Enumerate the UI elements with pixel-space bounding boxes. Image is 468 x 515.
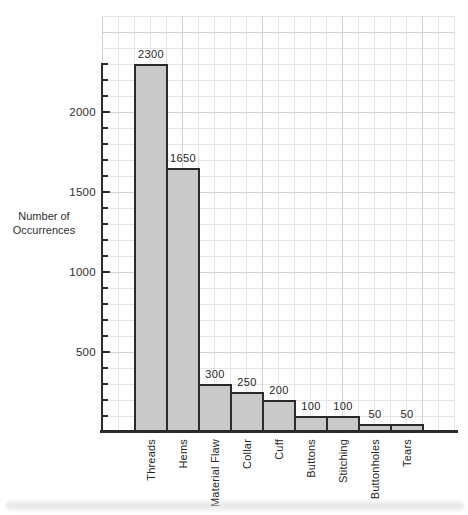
x-tick-label-tears: Tears xyxy=(401,439,414,467)
bar-hems xyxy=(166,168,200,432)
bar-buttonholes xyxy=(358,424,392,432)
bar-value-hems: 1650 xyxy=(153,151,213,165)
x-tick-label-cuff: Cuff xyxy=(273,439,286,460)
y-minor-tick-800 xyxy=(103,303,108,305)
y-major-tick-1500 xyxy=(103,191,110,193)
y-tick-label-500: 500 xyxy=(54,345,96,359)
y-axis-title: Number ofOccurrences xyxy=(4,209,84,237)
x-tick-label-buttonholes: Buttonholes xyxy=(369,439,382,499)
bar-collar xyxy=(230,392,264,432)
x-tick-label-hems: Hems xyxy=(177,439,190,469)
bar-value-threads: 2300 xyxy=(121,47,181,61)
x-tick-label-threads: Threads xyxy=(145,439,158,481)
y-minor-tick-2200 xyxy=(103,79,108,81)
scan-shadow xyxy=(6,499,464,512)
y-minor-tick-2100 xyxy=(103,95,108,97)
x-tick-label-buttons: Buttons xyxy=(305,439,318,478)
y-minor-tick-1100 xyxy=(103,255,108,257)
y-minor-tick-300 xyxy=(103,383,108,385)
y-tick-label-1000: 1000 xyxy=(54,265,96,279)
y-minor-tick-1900 xyxy=(103,127,108,129)
y-minor-tick-2300 xyxy=(103,63,108,65)
y-minor-tick-900 xyxy=(103,287,108,289)
bar-material-flaw xyxy=(198,384,232,432)
y-minor-tick-1300 xyxy=(103,223,108,225)
y-minor-tick-1800 xyxy=(103,143,108,145)
y-minor-tick-200 xyxy=(103,399,108,401)
y-minor-tick-400 xyxy=(103,367,108,369)
y-minor-tick-100 xyxy=(103,415,108,417)
y-minor-tick-1600 xyxy=(103,175,108,177)
y-minor-tick-1700 xyxy=(103,159,108,161)
bar-threads xyxy=(134,64,168,432)
bar-value-tears: 50 xyxy=(377,407,437,421)
x-tick-label-material-flaw: Material Flaw xyxy=(209,439,222,507)
y-axis-line xyxy=(101,63,103,433)
y-minor-tick-1200 xyxy=(103,239,108,241)
y-major-tick-2000 xyxy=(103,111,110,113)
chart-container: 500100015002000 Number ofOccurrences 230… xyxy=(0,0,468,515)
y-tick-label-2000: 2000 xyxy=(54,105,96,119)
y-minor-tick-700 xyxy=(103,319,108,321)
bar-tears xyxy=(390,424,424,432)
x-tick-label-stitching: Stitching xyxy=(337,439,350,483)
y-minor-tick-1400 xyxy=(103,207,108,209)
bar-value-cuff: 200 xyxy=(249,383,309,397)
y-minor-tick-600 xyxy=(103,335,108,337)
y-tick-label-1500: 1500 xyxy=(54,185,96,199)
y-major-tick-500 xyxy=(103,351,110,353)
bar-buttons xyxy=(294,416,328,432)
x-tick-label-collar: Collar xyxy=(241,439,254,469)
y-major-tick-1000 xyxy=(103,271,110,273)
